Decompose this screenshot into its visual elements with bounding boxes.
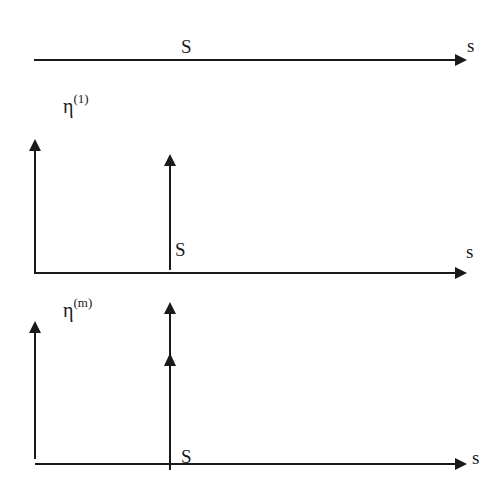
- eta-base: η: [63, 95, 73, 118]
- axis-label-s-1: s: [467, 35, 474, 56]
- diagram-canvas: S s η(1) S s η(m) S s: [0, 0, 504, 492]
- panel-1: S s: [34, 35, 474, 60]
- axis-label-s-3: s: [472, 447, 479, 468]
- marker-label-S-2: S: [175, 239, 186, 260]
- eta-label-m: η(m): [63, 295, 92, 322]
- panel-3: η(m) S s: [35, 295, 479, 470]
- marker-label-S-1: S: [181, 36, 192, 57]
- eta-label-1: η(1): [63, 91, 89, 118]
- eta-superscript: (1): [73, 91, 88, 106]
- eta-base: η: [63, 299, 73, 322]
- axis-label-s-2: s: [466, 241, 473, 262]
- eta-superscript: (m): [73, 295, 92, 310]
- second-arrowhead-icon: [164, 353, 176, 366]
- panel-2: η(1) S s: [34, 91, 473, 273]
- marker-label-S-3: S: [181, 446, 192, 467]
